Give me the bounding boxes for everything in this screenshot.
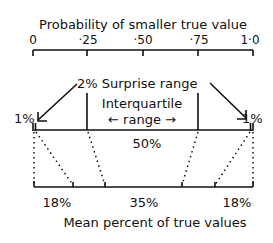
bottom-axis-title: Mean percent of true values: [63, 216, 246, 229]
right-tail-pct: 1%: [242, 112, 263, 125]
interquartile-range-label: ← range →: [108, 113, 176, 126]
bottom-left-pct: 18%: [43, 196, 72, 209]
bottom-middle-pct: 35%: [130, 196, 159, 209]
interquartile-label: Interquartile: [102, 97, 182, 110]
top-tick-75: ·75: [189, 34, 208, 46]
left-tail-pct: 1%: [14, 112, 35, 125]
middle-pct: 50%: [133, 137, 162, 150]
top-tick-0: 0: [29, 34, 37, 46]
top-tick-100: 1·0: [240, 34, 259, 46]
surprise-range-label: 2% Surprise range: [77, 77, 198, 90]
bottom-right-pct: 18%: [223, 196, 252, 209]
top-tick-25: ·25: [78, 34, 97, 46]
top-axis-title: Probability of smaller true value: [39, 18, 247, 31]
top-tick-50: ·50: [133, 34, 152, 46]
